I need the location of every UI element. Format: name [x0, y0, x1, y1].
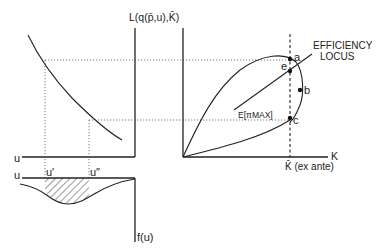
point-c-marker [288, 116, 292, 120]
point-a-label: a [294, 51, 301, 63]
density-u-axis-label: u [14, 169, 20, 181]
efficiency-locus-label-line1: EFFICIENCY [313, 40, 373, 51]
k-bar-label: K̄ (ex ante) [285, 160, 334, 172]
u-double-prime-label: u″ [90, 166, 100, 178]
e-pimax-label: E[πMAX] [238, 110, 273, 120]
point-e-marker [288, 69, 292, 73]
density-axis-label: f(u) [137, 231, 154, 243]
right-panel: L(q(p̄,u),K̄) K K̄ (ex ante) EFFICIENCY … [129, 11, 373, 172]
efficiency-locus-line [234, 54, 312, 110]
u-prime-label: u′ [46, 166, 54, 178]
point-c-label: c [293, 114, 299, 126]
efficiency-locus-diagram: u L(q(p̄,u),K̄) K K̄ (ex ante) EFFICIENC… [0, 0, 384, 248]
point-b-marker [298, 88, 302, 92]
l-of-u-curve [28, 35, 122, 140]
point-a-marker [288, 57, 292, 61]
density-panel: u f(u) u′ u″ [14, 166, 154, 243]
efficiency-locus-label-line2: LOCUS [320, 51, 355, 62]
left-u-axis-label: u [14, 152, 20, 164]
y-axis-label: L(q(p̄,u),K̄) [129, 11, 179, 23]
point-b-label: b [304, 84, 310, 96]
loop-lower-branch [183, 120, 290, 157]
point-e-label: e [281, 60, 287, 72]
